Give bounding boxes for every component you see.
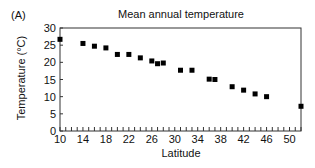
data-point xyxy=(230,84,235,89)
x-tick-label: 26 xyxy=(146,133,158,145)
data-point xyxy=(80,41,85,46)
x-tick-label: 18 xyxy=(100,133,112,145)
y-tick-label: 30 xyxy=(44,22,56,34)
x-tick-label: 30 xyxy=(169,133,181,145)
x-tick-label: 10 xyxy=(54,133,66,145)
x-tick-label: 50 xyxy=(283,133,295,145)
y-tick-label: 20 xyxy=(44,56,56,68)
data-point xyxy=(92,44,97,49)
y-tick-label: 25 xyxy=(44,39,56,51)
data-point xyxy=(241,88,246,93)
plot-axes xyxy=(60,28,301,131)
data-point xyxy=(161,61,166,66)
x-tick-label: 46 xyxy=(260,133,272,145)
x-tick-label: 42 xyxy=(237,133,249,145)
y-tick-label: 15 xyxy=(44,74,56,86)
data-point xyxy=(58,37,63,42)
x-axis-ticks: 1014182226303438424650 xyxy=(54,127,301,145)
x-tick-label: 38 xyxy=(215,133,227,145)
y-tick-label: 5 xyxy=(50,108,56,120)
data-point xyxy=(126,52,131,57)
data-point xyxy=(103,45,108,50)
data-point xyxy=(178,68,183,73)
x-tick-label: 14 xyxy=(77,133,89,145)
plot-frame xyxy=(60,28,301,131)
data-point xyxy=(207,77,212,82)
data-point xyxy=(115,52,120,57)
x-tick-label: 34 xyxy=(192,133,204,145)
data-point xyxy=(189,68,194,73)
data-point xyxy=(138,55,143,60)
data-point xyxy=(253,91,258,96)
data-point xyxy=(264,94,269,99)
x-tick-label: 22 xyxy=(123,133,135,145)
scatter-plot: 051015202530 1014182226303438424650 xyxy=(0,0,315,168)
data-point xyxy=(155,61,160,66)
data-point xyxy=(299,104,304,109)
data-point xyxy=(212,77,217,82)
data-point xyxy=(149,58,154,63)
data-points xyxy=(58,37,304,109)
y-tick-label: 10 xyxy=(44,91,56,103)
